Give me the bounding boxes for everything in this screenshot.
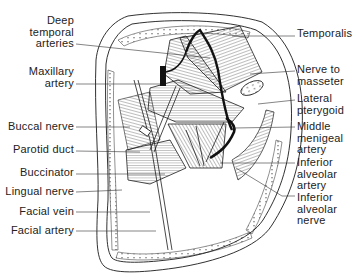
label-line: Nerve to <box>297 64 344 76</box>
label-line: Inferior <box>297 192 337 204</box>
label-line: Inferior <box>297 157 337 169</box>
label-line: Lateral <box>297 93 344 105</box>
label-line: artery <box>297 144 343 156</box>
label-line: Temporalis <box>297 28 352 40</box>
label-facial-artery: Facial artery <box>0 225 74 237</box>
label-inferior-alveolar-nerve: Inferior alveolar nerve <box>297 192 337 227</box>
label-line: nerve <box>297 215 337 227</box>
label-middle-menigeal-artery: Middle menigeal artery <box>297 121 343 156</box>
label-line: Buccal nerve <box>0 121 74 133</box>
label-line: Deep <box>0 15 74 27</box>
label-line: Middle <box>297 121 343 133</box>
label-maxillary-artery: Maxillary artery <box>0 66 74 89</box>
label-deep-temporal-arteries: Deep temporal arteries <box>0 15 74 50</box>
label-line: Facial artery <box>0 225 74 237</box>
label-temporalis: Temporalis <box>297 28 352 40</box>
label-lingual-nerve: Lingual nerve <box>0 186 74 198</box>
label-inferior-alveolar-artery: Inferior alveolar artery <box>297 157 337 192</box>
label-line: pterygoid <box>297 105 344 117</box>
label-buccinator: Buccinator <box>0 167 74 179</box>
label-line: arteries <box>0 38 74 50</box>
label-lateral-pterygoid: Lateral pterygoid <box>297 93 344 116</box>
label-line: Maxillary <box>0 66 74 78</box>
label-buccal-nerve: Buccal nerve <box>0 121 74 133</box>
label-line: Parotid duct <box>0 144 74 156</box>
label-line: Facial vein <box>0 206 74 218</box>
label-line: Buccinator <box>0 167 74 179</box>
label-line: artery <box>0 78 74 90</box>
label-line: artery <box>297 180 337 192</box>
label-facial-vein: Facial vein <box>0 206 74 218</box>
label-parotid-duct: Parotid duct <box>0 144 74 156</box>
label-line: Lingual nerve <box>0 186 74 198</box>
label-nerve-to-masseter: Nerve to masseter <box>297 64 344 87</box>
label-line: masseter <box>297 76 344 88</box>
